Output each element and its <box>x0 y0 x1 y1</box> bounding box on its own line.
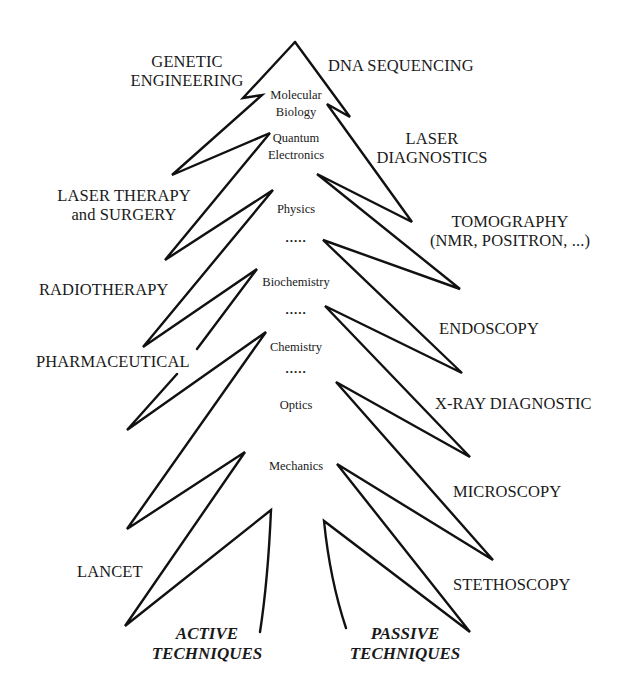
branch-label-line2: and SURGERY <box>46 206 202 225</box>
root-label-line2: TECHNIQUES <box>334 644 476 664</box>
root-active-techniques: ACTIVE TECHNIQUES <box>136 624 278 663</box>
branch-endoscopy: ENDOSCOPY <box>439 320 539 339</box>
branch-dna-sequencing: DNA SEQUENCING <box>328 57 474 76</box>
branch-pharmaceutical: PHARMACEUTICAL <box>36 353 190 372</box>
root-label-line1: ACTIVE <box>136 624 278 644</box>
branch-stethoscopy: STETHOSCOPY <box>453 576 571 595</box>
branch-laser-therapy: LASER THERAPY and SURGERY <box>46 187 202 225</box>
branch-label-line1: GENETIC <box>116 53 258 72</box>
branch-genetic-engineering: GENETIC ENGINEERING <box>116 53 258 91</box>
trunk-label-optics: Optics <box>258 398 334 412</box>
branch-label-line1: LASER <box>368 130 496 149</box>
branch-lancet: LANCET <box>77 563 143 582</box>
trunk-ellipsis-3: ..... <box>258 362 334 377</box>
trunk-label-chemistry: Chemistry <box>258 340 334 354</box>
branch-laser-diagnostics: LASER DIAGNOSTICS <box>368 130 496 168</box>
branch-label-line1: LASER THERAPY <box>46 187 202 206</box>
root-label-line2: TECHNIQUES <box>136 644 278 664</box>
trunk-label-mechanics: Mechanics <box>258 459 334 473</box>
branch-label-line1: TOMOGRAPHY <box>420 213 600 232</box>
branch-tomography: TOMOGRAPHY (NMR, POSITRON, ...) <box>420 213 600 251</box>
trunk-label-biology: Biology <box>258 105 334 119</box>
branch-label-line2: ENGINEERING <box>116 72 258 91</box>
root-passive-techniques: PASSIVE TECHNIQUES <box>334 624 476 663</box>
trunk-label-physics: Physics <box>258 202 334 216</box>
root-label-line1: PASSIVE <box>334 624 476 644</box>
branch-radiotherapy: RADIOTHERAPY <box>39 281 169 300</box>
trunk-label-biochemistry: Biochemistry <box>248 275 344 289</box>
branch-label-line2: DIAGNOSTICS <box>368 149 496 168</box>
trunk-ellipsis-1: ..... <box>258 231 334 246</box>
branch-microscopy: MICROSCOPY <box>453 483 561 502</box>
trunk-label-electronics: Electronics <box>258 148 334 162</box>
trunk-ellipsis-2: ..... <box>258 303 334 318</box>
branch-x-ray-diagnostic: X-RAY DIAGNOSTIC <box>435 395 592 414</box>
trunk-label-quantum: Quantum <box>258 131 334 145</box>
trunk-label-molecular: Molecular <box>258 88 334 102</box>
branch-label-line2: (NMR, POSITRON, ...) <box>420 232 600 251</box>
